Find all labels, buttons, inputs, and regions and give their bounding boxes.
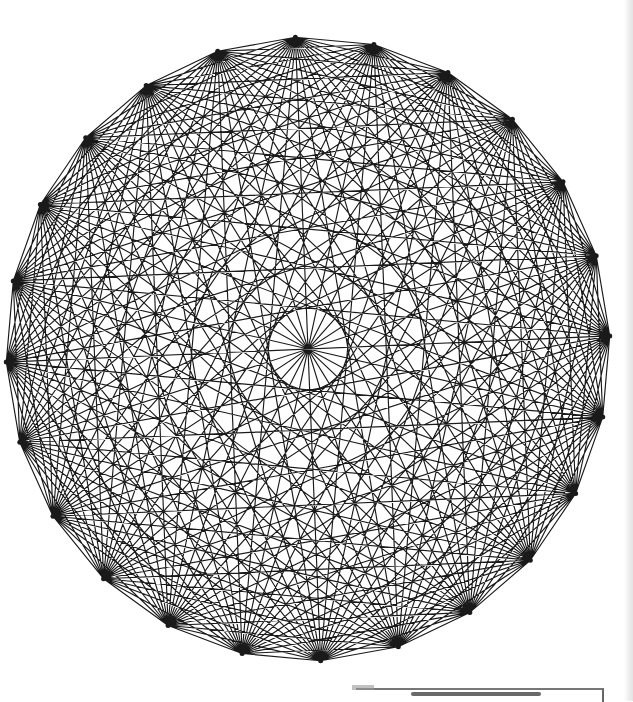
graph-vertex (166, 623, 171, 628)
graph-vertex (528, 558, 533, 563)
graph-vertex (396, 644, 401, 649)
graph-vertex (560, 179, 565, 184)
scan-mark (352, 685, 374, 690)
graph-vertex (607, 333, 612, 338)
scan-frame-edge (356, 688, 604, 702)
graph-vertex (371, 42, 376, 47)
graph-vertex (573, 491, 578, 496)
page-edge-strip (624, 0, 633, 701)
graph-vertex (467, 610, 472, 615)
graph-vertex (318, 658, 323, 663)
scan-smudge (411, 692, 541, 696)
graph-vertex (83, 135, 88, 140)
graph-vertex (510, 117, 515, 122)
graph-vertex (11, 278, 16, 283)
graph-vertex (240, 651, 245, 656)
graph-vertex (293, 35, 298, 40)
graph-vertex (38, 202, 43, 207)
graph-vertex (51, 514, 56, 519)
graph-vertex (144, 83, 149, 88)
graph-vertex (594, 253, 599, 258)
graph-vertex (600, 415, 605, 420)
graph-vertex (445, 70, 450, 75)
graph-vertex (17, 440, 22, 445)
edge-set (6, 37, 609, 660)
graph-vertex (101, 576, 106, 581)
graph-edges (6, 37, 609, 660)
graph-vertex (215, 49, 220, 54)
graph-vertex (4, 360, 9, 365)
